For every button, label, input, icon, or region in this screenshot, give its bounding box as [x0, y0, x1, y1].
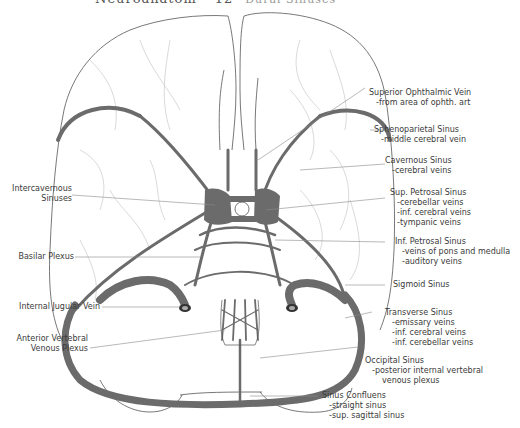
label-intercavernous-sinuses: Intercavernous Sinuses — [12, 184, 72, 204]
label-cavernous-sinus: Cavernous Sinus -cerebral veins — [385, 156, 452, 176]
venous-sinuses — [58, 108, 390, 405]
label-superior-ophthalmic-vein: Superior Ophthalmic Vein -from area of o… — [369, 88, 471, 108]
label-basilar-plexus: Basilar Plexus — [18, 252, 74, 262]
label-occipital-sinus: Occipital Sinus -posterior internal vert… — [365, 356, 483, 386]
label-sup-petrosal-sinus: Sup. Petrosal Sinus -cerebellar veins -i… — [390, 188, 471, 228]
pituitary — [235, 202, 249, 216]
brainstem-outline — [221, 300, 259, 345]
label-transverse-sinus: Transverse Sinus -emissary veins -inf. c… — [385, 308, 473, 348]
label-inf-petrosal-sinus: Inf. Petrosal Sinus -veins of pons and m… — [395, 237, 510, 267]
jugular-openings — [179, 304, 298, 312]
label-sinus-confluens: Sinus Confluens -straight sinus -sup. sa… — [322, 391, 404, 421]
label-sigmoid-sinus: Sigmoid Sinus — [393, 280, 450, 290]
gyri-lines — [80, 40, 359, 300]
label-sphenoparietal-sinus: Sphenoparietal Sinus -middle cerebral ve… — [374, 125, 466, 145]
label-anterior-vertebral-venous-plexus: Anterior Vertebral Venous Plexus — [17, 334, 88, 354]
label-internal-jugular-vein: Internal Jugular Vein — [19, 302, 100, 312]
